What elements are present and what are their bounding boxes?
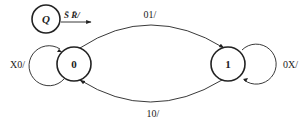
transition-label: X0/ (10, 59, 25, 70)
q-legend: Q S̄ R̄/ (32, 5, 91, 33)
arrowhead-icon (57, 49, 62, 52)
transition-label: 10/ (147, 108, 160, 119)
state-1-label: 1 (225, 58, 231, 70)
transition-1-to-1: 0X/ (242, 44, 298, 84)
state-1: 1 (211, 47, 245, 81)
transition-0-to-0: X0/ (10, 46, 64, 86)
arc-1-to-0 (80, 80, 222, 102)
condition-label: S̄ R̄/ (64, 10, 81, 20)
transition-label: 01/ (144, 9, 157, 20)
state-diagram: Q S̄ R̄/ X0/ 0X/ 01/ 10/ 0 1 (0, 0, 308, 123)
state-0-label: 0 (71, 58, 77, 70)
transition-0-to-1: 01/ (80, 9, 224, 48)
transition-label: 0X/ (283, 59, 298, 70)
transition-1-to-0: 10/ (80, 80, 222, 119)
q-label: Q (42, 13, 50, 25)
arc-0-to-1 (80, 25, 224, 48)
arrowhead-icon (243, 78, 248, 82)
self-loop-1 (242, 44, 276, 84)
state-0: 0 (57, 47, 91, 81)
